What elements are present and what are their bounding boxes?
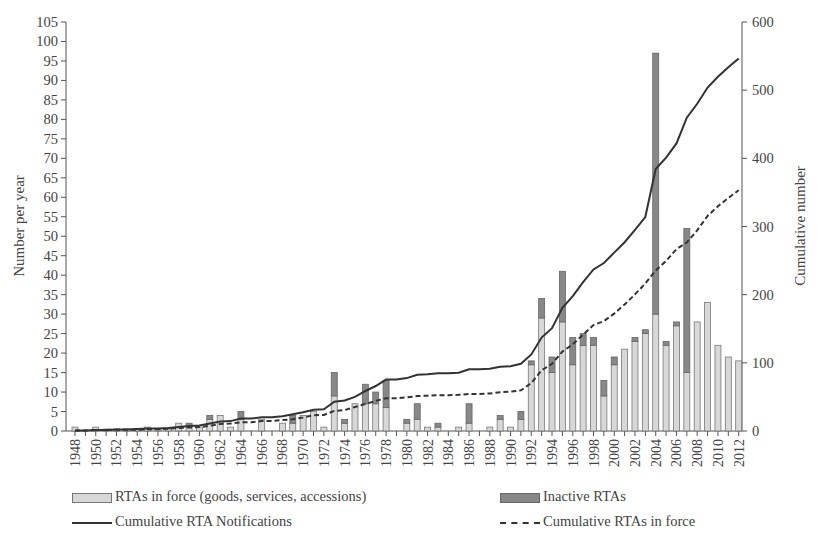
bar-inactive — [497, 415, 503, 419]
bar-in-force — [466, 423, 472, 431]
in-force-swatch — [72, 493, 112, 503]
left-tick-label: 65 — [44, 170, 59, 186]
bar-in-force — [725, 357, 731, 431]
solid-line-swatch — [72, 522, 112, 524]
bar-in-force — [715, 345, 721, 431]
bar-in-force — [580, 345, 586, 431]
bar-series — [72, 53, 742, 431]
bar-inactive — [466, 404, 472, 423]
legend-cum-notifications: Cumulative RTA Notifications — [72, 513, 292, 530]
bar-inactive — [684, 228, 690, 372]
inactive-swatch — [500, 493, 540, 503]
bar-inactive — [518, 412, 524, 420]
bar-in-force — [425, 427, 431, 431]
bar-inactive — [539, 299, 545, 318]
left-tick-label: 60 — [44, 189, 59, 205]
bar-in-force — [435, 427, 441, 431]
x-tick-label: 1952 — [109, 439, 124, 467]
legend-in-force: RTAs in force (goods, services, accessio… — [72, 488, 366, 505]
bar-inactive — [601, 380, 607, 396]
right-tick-label: 300 — [752, 219, 774, 235]
right-tick-label: 600 — [752, 14, 774, 30]
x-tick-label: 1970 — [296, 439, 311, 467]
bar-inactive — [404, 419, 410, 423]
x-tick-label: 1960 — [192, 439, 207, 467]
bar-in-force — [694, 322, 700, 431]
x-tick-label: 1974 — [338, 439, 353, 467]
line-series — [75, 58, 739, 430]
bar-in-force — [414, 419, 420, 431]
x-tick-label: 2006 — [669, 439, 684, 467]
x-tick-label: 1984 — [441, 439, 456, 467]
left-tick-label: 55 — [44, 209, 59, 225]
bar-in-force — [622, 349, 628, 431]
right-tick-label: 0 — [752, 423, 759, 439]
bar-inactive — [331, 373, 337, 396]
left-tick-label: 90 — [44, 72, 59, 88]
bar-in-force — [528, 365, 534, 431]
left-tick-label: 40 — [44, 267, 59, 283]
bar-in-force — [611, 365, 617, 431]
x-tick-label: 1996 — [566, 439, 581, 467]
right-axis-label: Cumulative number — [792, 166, 808, 286]
bar-inactive — [663, 341, 669, 345]
bar-in-force — [279, 423, 285, 431]
bar-in-force — [549, 373, 555, 431]
legend-inactive-label: Inactive RTAs — [543, 488, 626, 504]
bar-inactive — [642, 330, 648, 334]
x-tick-label: 1980 — [400, 439, 415, 467]
bar-in-force — [373, 404, 379, 431]
x-tick-label: 1954 — [130, 439, 145, 467]
legend-cum-notifications-label: Cumulative RTA Notifications — [115, 513, 292, 529]
right-tick-label: 100 — [752, 355, 774, 371]
legend-inactive: Inactive RTAs — [500, 488, 626, 505]
legend-cum-in-force: Cumulative RTAs in force — [500, 513, 695, 530]
cumulative-notifications-line — [75, 58, 739, 430]
bar-inactive — [673, 322, 679, 326]
x-tick-label: 1948 — [68, 439, 83, 467]
left-tick-label: 70 — [44, 150, 59, 166]
left-tick-label: 5 — [51, 404, 58, 420]
bar-inactive — [362, 384, 368, 403]
left-tick-label: 10 — [44, 384, 59, 400]
x-tick-label: 2010 — [711, 439, 726, 467]
left-tick-label: 85 — [44, 92, 59, 108]
x-tick-label: 1966 — [255, 439, 270, 467]
bar-in-force — [559, 322, 565, 431]
x-tick-label: 2012 — [732, 439, 747, 467]
bar-in-force — [383, 408, 389, 431]
bar-in-force — [663, 345, 669, 431]
x-tick-label: 1950 — [89, 439, 104, 467]
x-tick-label: 1976 — [358, 439, 373, 467]
x-tick-label: 2008 — [690, 439, 705, 467]
bar-inactive — [632, 338, 638, 342]
left-tick-label: 80 — [44, 111, 59, 127]
bar-inactive — [559, 271, 565, 322]
bar-in-force — [321, 427, 327, 431]
bar-inactive — [207, 415, 213, 419]
left-tick-label: 105 — [36, 14, 58, 30]
dashed-line-swatch — [500, 522, 540, 524]
bar-in-force — [736, 361, 742, 431]
bar-inactive — [414, 404, 420, 420]
bar-in-force — [518, 419, 524, 431]
bar-in-force — [591, 345, 597, 431]
bar-inactive — [528, 361, 534, 365]
bar-in-force — [290, 423, 296, 431]
left-tick-label: 25 — [44, 326, 59, 342]
left-tick-label: 95 — [44, 53, 59, 69]
x-tick-label: 1956 — [151, 439, 166, 467]
x-tick-label: 1958 — [172, 439, 187, 467]
x-tick-label: 1986 — [462, 439, 477, 467]
bar-in-force — [487, 427, 493, 431]
x-tick-label: 1982 — [421, 439, 436, 467]
rta-chart: 0510152025303540455055606570758085909510… — [0, 0, 818, 553]
right-tick-label: 400 — [752, 150, 774, 166]
right-tick-label: 500 — [752, 82, 774, 98]
bar-in-force — [684, 373, 690, 431]
left-tick-label: 35 — [44, 287, 59, 303]
left-tick-label: 50 — [44, 228, 59, 244]
bar-in-force — [456, 427, 462, 431]
x-tick-label: 1998 — [587, 439, 602, 467]
bar-in-force — [653, 314, 659, 431]
